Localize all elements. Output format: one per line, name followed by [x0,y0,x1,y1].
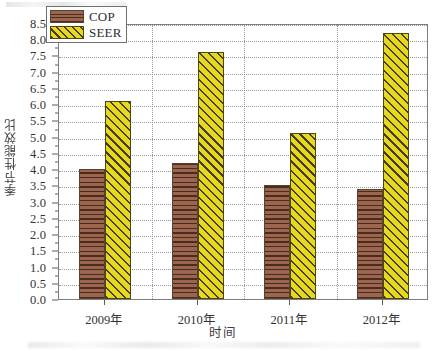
y-tick-label: 1.0 [30,260,46,275]
y-tick-label: 6.5 [30,81,46,96]
gridline-horizontal [59,90,427,91]
y-tick-label: 7.5 [30,49,46,64]
gridline-horizontal [59,57,427,58]
y-tick-label: 5.0 [30,130,46,145]
x-axis: 2009年2010年2011年2012年 [58,303,428,323]
y-tick-label: 4.0 [30,163,46,178]
gridline-vertical [152,25,153,299]
y-tick-label: 7.0 [30,65,46,80]
y-tick-label: 3.0 [30,195,46,210]
legend-swatch-cop-icon [50,10,84,23]
y-tick-label: 5.5 [30,114,46,129]
plot-inner [59,25,427,299]
gridline-vertical [244,25,245,299]
y-tick-label: 6.0 [30,98,46,113]
legend-swatch-seer-icon [50,26,84,39]
legend-item-seer: SEER [50,25,122,40]
bar-seer-2010年 [198,52,224,299]
y-axis-title: 季节性能效比 [4,118,22,196]
x-axis-title: 时间 [0,322,446,341]
legend: COPSEER [46,6,127,43]
bar-seer-2012年 [383,33,409,299]
y-tick-label: 0.5 [30,276,46,291]
x-tick-mark [382,300,383,305]
bar-cop-2012年 [357,189,383,299]
bar-cop-2009年 [79,169,105,299]
bar-cop-2011年 [264,185,290,299]
y-tick-label: 2.5 [30,211,46,226]
scan-artifact-bottom [28,342,420,348]
bar-seer-2011年 [290,133,316,299]
y-tick-label: 4.5 [30,146,46,161]
y-tick-label: 0.0 [30,293,46,308]
x-tick-mark [197,300,198,305]
legend-item-cop: COP [50,9,122,24]
legend-label: COP [89,9,115,25]
y-tick-label: 8.0 [30,33,46,48]
plot-area [58,24,428,300]
y-tick-label: 8.5 [30,17,46,32]
gridline-horizontal [59,74,427,75]
x-tick-mark [104,300,105,305]
y-tick-label: 2.0 [30,228,46,243]
gridline-vertical [337,25,338,299]
bar-seer-2009年 [105,101,131,299]
y-tick-label: 1.5 [30,244,46,259]
x-tick-mark [289,300,290,305]
y-tick-label: 3.5 [30,179,46,194]
bar-cop-2010年 [172,163,198,299]
legend-label: SEER [89,25,122,41]
